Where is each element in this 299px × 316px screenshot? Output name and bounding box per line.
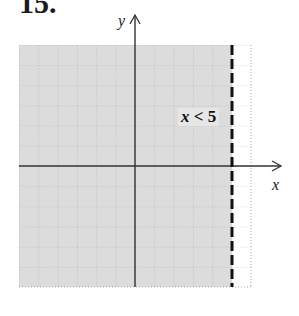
inequality-variable: x xyxy=(181,107,190,126)
inequality-label: x < 5 xyxy=(178,108,219,126)
inequality-graph: x y xyxy=(0,0,299,316)
inequality-expression: < 5 xyxy=(190,107,217,126)
x-axis-label: x xyxy=(271,176,279,193)
y-axis-label: y xyxy=(116,12,126,30)
